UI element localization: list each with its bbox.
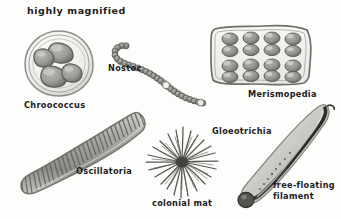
label-free-floating-filament-line1: free-floating	[273, 181, 335, 190]
organism-chroococcus	[20, 28, 98, 100]
plate-figure: highly magnified	[0, 0, 341, 219]
label-merismopedia: Merismopedia	[248, 90, 317, 99]
organism-oscillatoria	[8, 105, 158, 200]
nostoc-beads	[112, 43, 206, 106]
organism-merismopedia	[206, 22, 316, 88]
label-oscillatoria: Oscillatoria	[76, 167, 132, 176]
label-nostoc: Nostoc	[108, 64, 142, 73]
label-colonial-mat: colonial mat	[152, 199, 212, 208]
colonial-mat-centre	[176, 157, 189, 168]
gloeotrichia-heterocyst	[238, 193, 254, 208]
plate-heading: highly magnified	[27, 6, 126, 17]
label-free-floating-filament-line2: filament	[273, 192, 314, 201]
label-gloeotrichia: Gloeotrichia	[212, 127, 272, 136]
